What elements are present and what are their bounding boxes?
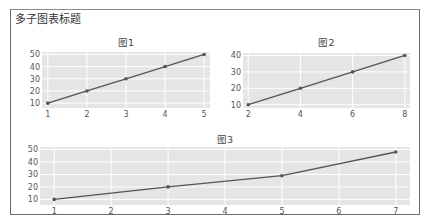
subplot-2: 246810203040图2	[231, 37, 410, 119]
data-point	[403, 54, 407, 58]
y-tick-label: 30	[231, 68, 241, 77]
y-tick-label: 40	[30, 63, 40, 72]
x-tick-label: 6	[336, 207, 341, 216]
x-tick-label: 5	[202, 110, 207, 119]
subplot-3: 12345671020304050图3	[28, 134, 410, 216]
data-point	[280, 174, 284, 178]
y-tick-label: 20	[30, 87, 40, 96]
y-tick-label: 10	[231, 101, 241, 110]
subplot-title: 图1	[118, 37, 134, 48]
y-tick-label: 30	[28, 170, 38, 179]
y-tick-label: 50	[30, 50, 40, 59]
subplot-1: 123451020304050图1	[30, 37, 210, 119]
y-tick-label: 40	[28, 158, 38, 167]
x-tick-label: 2	[109, 207, 114, 216]
y-tick-label: 20	[28, 183, 38, 192]
subplot-title: 图3	[217, 134, 233, 145]
x-tick-label: 3	[166, 207, 171, 216]
y-tick-label: 30	[30, 75, 40, 84]
data-point	[299, 86, 303, 90]
x-tick-label: 5	[279, 207, 284, 216]
x-tick-label: 4	[163, 110, 168, 119]
data-point	[202, 53, 206, 57]
y-tick-label: 10	[28, 195, 38, 204]
y-tick-label: 40	[231, 51, 241, 60]
data-point	[246, 103, 250, 107]
data-point	[394, 150, 398, 154]
data-point	[163, 65, 167, 69]
data-point	[351, 70, 355, 74]
x-tick-label: 8	[402, 110, 407, 119]
x-tick-label: 7	[393, 207, 398, 216]
x-tick-label: 1	[52, 207, 57, 216]
y-tick-label: 20	[231, 84, 241, 93]
data-point	[124, 77, 128, 81]
subplot-title: 图2	[318, 37, 334, 48]
x-tick-label: 4	[298, 110, 303, 119]
data-point	[85, 89, 89, 93]
y-tick-label: 50	[28, 145, 38, 154]
data-point	[52, 198, 56, 202]
charts-canvas: 123451020304050图1246810203040图2123456710…	[0, 0, 425, 224]
x-tick-label: 6	[350, 110, 355, 119]
x-tick-label: 2	[246, 110, 251, 119]
x-tick-label: 3	[123, 110, 128, 119]
data-point	[46, 101, 50, 105]
x-tick-label: 2	[84, 110, 89, 119]
x-tick-label: 1	[45, 110, 50, 119]
data-point	[166, 185, 170, 189]
y-tick-label: 10	[30, 99, 40, 108]
x-tick-label: 4	[222, 207, 227, 216]
